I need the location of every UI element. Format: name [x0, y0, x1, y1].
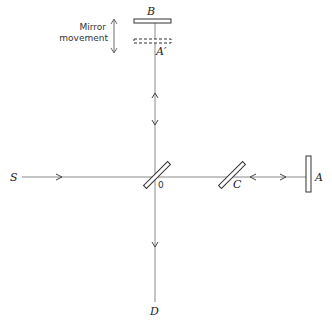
label-movement-line2: movement [59, 33, 108, 43]
label-beam-splitter: 0 [158, 180, 164, 190]
label-detector: D [149, 305, 159, 318]
label-source: S [10, 171, 18, 184]
label-compensator: C [233, 178, 242, 191]
beam-splitter [144, 162, 171, 189]
label-mirror-a: A [314, 171, 323, 184]
label-mirror-a-prime: A′ [155, 45, 167, 58]
label-movement-line1: Mirror [79, 22, 106, 32]
interferometer-diagram: S B A′ A C 0 D Mirror movement [0, 0, 332, 327]
mirror-a-prime [134, 39, 171, 43]
mirror-b [134, 19, 171, 23]
mirror-a [306, 156, 311, 192]
label-mirror-b: B [146, 5, 155, 18]
